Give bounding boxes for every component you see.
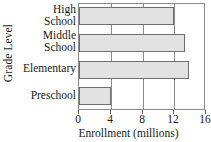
tick-label: 0 — [66, 113, 90, 126]
category-label-preschool: Preschool — [14, 89, 76, 101]
gridline — [174, 4, 175, 109]
bar-high-school — [79, 7, 174, 25]
plot-area — [78, 3, 205, 110]
bar-preschool — [79, 87, 111, 105]
category-label-high-school: High School — [14, 3, 76, 28]
tick-label: 8 — [130, 113, 154, 126]
category-label-line: School — [14, 41, 76, 53]
x-axis-title: Enrollment (millions) — [46, 126, 211, 140]
tick-label: 12 — [161, 113, 185, 126]
category-label-middle-school: Middle School — [14, 29, 76, 54]
tick-label: 16 — [193, 113, 211, 126]
category-label-line: High — [14, 3, 76, 15]
bar-chart: Grade Level High School Middle School El… — [0, 0, 211, 142]
category-label-line: Middle — [14, 29, 76, 41]
category-label-line: Preschool — [14, 89, 76, 101]
tick-label: 4 — [98, 113, 122, 126]
category-axis-labels: High School Middle School Elementary Pre… — [14, 3, 76, 110]
x-axis-tick-labels: 0481216 — [78, 113, 211, 127]
category-label-line: School — [14, 15, 76, 27]
bar-elementary — [79, 61, 189, 79]
category-label-line: Elementary — [14, 62, 76, 74]
bar-middle-school — [79, 34, 185, 52]
category-label-elementary: Elementary — [14, 62, 76, 74]
